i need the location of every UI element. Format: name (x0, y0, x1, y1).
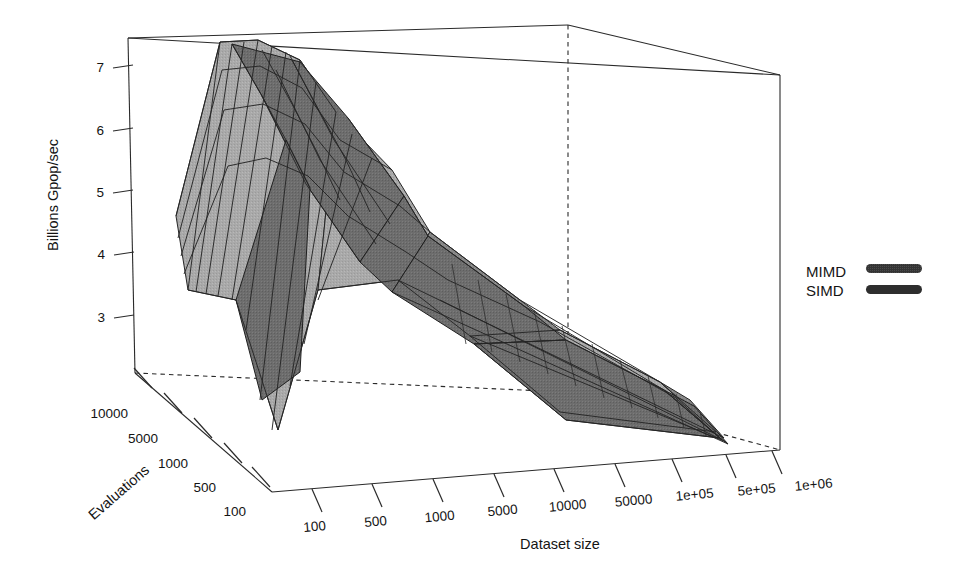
y-axis: 10000 5000 1000 500 100 Evaluations (85, 368, 270, 523)
legend: MIMD SIMD (806, 263, 922, 299)
x-tick-label-10000: 10000 (548, 496, 587, 514)
x-tick-label-5000: 5000 (487, 502, 518, 520)
y-tick-label-1000: 1000 (158, 456, 188, 471)
x-tick-label-50000: 50000 (614, 491, 653, 509)
z-tick-label-5: 5 (96, 185, 104, 200)
x-tick-label-1e05: 1e+05 (675, 485, 714, 503)
legend-label-mimd: MIMD (806, 263, 846, 280)
x-axis: 100 500 1000 5000 10000 50000 1e+05 5e+0… (303, 451, 833, 552)
z-axis-title: Billions Gpop/sec (45, 139, 61, 251)
x-axis-title: Dataset size (520, 536, 600, 552)
y-axis-title: Evaluations (85, 462, 152, 523)
floor-edge-back-left (135, 373, 568, 392)
legend-label-simd: SIMD (806, 282, 844, 299)
y-tick-label-5000: 5000 (128, 431, 158, 446)
x-tick-label-5e05: 5e+05 (737, 480, 776, 498)
y-tick-label-10000: 10000 (90, 406, 128, 421)
plot-canvas: 7 6 5 4 3 Billions Gpop/sec 10000 5000 1… (0, 0, 966, 573)
y-tick-label-100: 100 (223, 504, 246, 519)
z-tick-label-6: 6 (96, 123, 104, 138)
z-tick-label-7: 7 (96, 60, 104, 75)
legend-swatch-simd (866, 285, 922, 294)
x-tick-label-500: 500 (364, 513, 388, 530)
z-axis: 7 6 5 4 3 Billions Gpop/sec (45, 60, 134, 325)
x-tick-label-100: 100 (303, 518, 327, 535)
surface-plot-figure: 7 6 5 4 3 Billions Gpop/sec 10000 5000 1… (0, 0, 966, 573)
legend-swatch-mimd (866, 264, 922, 273)
x-tick-label-1000: 1000 (424, 508, 455, 526)
x-tick-label-1e06: 1e+06 (794, 475, 833, 493)
y-tick-label-500: 500 (193, 480, 216, 495)
z-tick-label-3: 3 (97, 310, 105, 325)
z-tick-label-4: 4 (97, 247, 105, 262)
